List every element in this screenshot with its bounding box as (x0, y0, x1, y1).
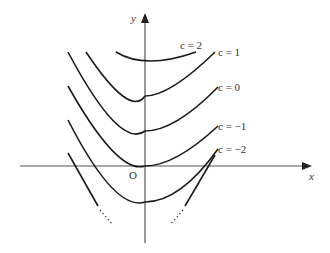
level-curves-diagram: y x O c = 2 c = 1 c = 0 c = −1 c = −2 (0, 0, 330, 253)
curve-label-c-0: c = 0 (218, 81, 241, 93)
curve-label-c-minus-2: c = −2 (218, 143, 246, 155)
curve-label-c-1: c = 1 (218, 46, 240, 58)
curve-label-c-minus-1: c = −1 (218, 120, 246, 132)
curve-lower-left (68, 153, 98, 206)
origin-label: O (129, 169, 137, 181)
x-axis-arrow-icon (302, 162, 312, 170)
x-axis-label: x (308, 170, 314, 182)
curve-lower-right (185, 155, 215, 206)
continuation-dots-right (170, 210, 183, 225)
curve-c-2 (116, 52, 196, 61)
y-axis-label: y (130, 12, 136, 24)
curve-label-c-2: c = 2 (180, 39, 202, 51)
curve-c-1 (86, 52, 215, 102)
continuation-dots-left (100, 210, 113, 225)
y-axis-arrow-icon (141, 13, 149, 23)
